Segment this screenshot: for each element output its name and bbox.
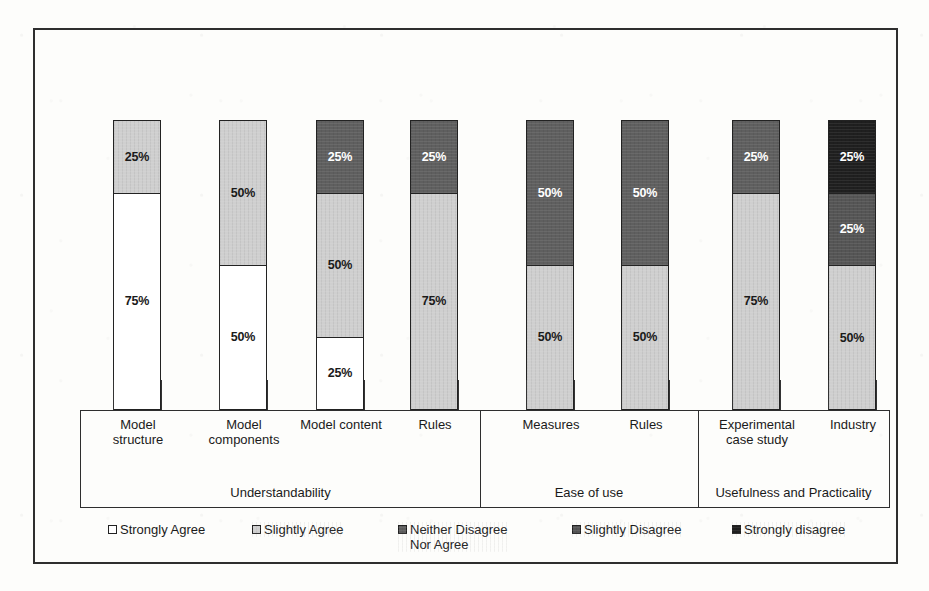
figure-frame: 25%75%50%50%25%50%25%25%75%50%50%50%50%2… — [33, 28, 898, 564]
bar-8: 25%25%50% — [828, 120, 876, 410]
legend-label: Strongly Agree — [120, 522, 205, 537]
bar-segment-neither: 50% — [527, 121, 573, 265]
category-label-line2: components — [189, 432, 299, 447]
segment-value-label: 25% — [840, 222, 864, 236]
bar-6: 50%50% — [621, 120, 669, 410]
legend-item-strongly-disagree[interactable]: Strongly disagree — [732, 522, 845, 537]
segment-value-label: 50% — [538, 330, 562, 344]
legend-swatch-icon — [572, 525, 581, 534]
category-label-1: Modelstructure — [90, 417, 186, 447]
axis-tick — [574, 380, 575, 410]
chart-legend: Strongly AgreeSlightly AgreeNeither Disa… — [80, 522, 890, 570]
segment-value-label: 50% — [328, 258, 352, 272]
category-label-table: ModelstructureModelcomponentsModel conte… — [80, 410, 890, 508]
segment-value-label: 50% — [633, 186, 657, 200]
segment-value-label: 75% — [744, 294, 768, 308]
bar-segment-neither: 25% — [317, 121, 363, 193]
segment-value-label: 75% — [422, 294, 446, 308]
bar-segment-strongly-agree: 50% — [220, 265, 266, 410]
group-label-3: Usefulness and Practicality — [698, 485, 889, 500]
axis-tick — [267, 380, 268, 410]
category-label-line2: structure — [90, 432, 186, 447]
legend-item-strongly-agree[interactable]: Strongly Agree — [108, 522, 205, 537]
bar-5: 50%50% — [526, 120, 574, 410]
bar-segment-slightly-agree: 25% — [114, 121, 160, 193]
axis-tick — [621, 380, 622, 410]
bar-stack: 25%25%50% — [828, 120, 876, 410]
axis-tick — [732, 380, 733, 410]
bar-1: 25%75% — [113, 120, 161, 410]
bar-segment-strongly-disagree: 25% — [829, 121, 875, 193]
category-label-8: Industry — [810, 417, 896, 432]
bar-7: 25%75% — [732, 120, 780, 410]
bar-stack: 25%50%25% — [316, 120, 364, 410]
axis-tick — [828, 380, 829, 410]
category-label-line1: Model content — [285, 417, 397, 432]
group-label-2: Ease of use — [480, 485, 698, 500]
bar-segment-neither: 25% — [733, 121, 779, 193]
bar-segment-slightly-agree: 50% — [527, 265, 573, 410]
category-label-line1: Model — [90, 417, 186, 432]
axis-tick — [458, 380, 459, 410]
segment-value-label: 50% — [840, 331, 864, 345]
category-label-line2: case study — [697, 432, 817, 447]
bar-3: 25%50%25% — [316, 120, 364, 410]
axis-tick — [219, 380, 220, 410]
legend-swatch-icon — [398, 525, 407, 534]
category-label-2: Modelcomponents — [189, 417, 299, 447]
legend-item-neither[interactable]: Neither DisagreeNor Agree — [398, 522, 508, 552]
axis-tick — [316, 380, 317, 410]
axis-tick — [364, 380, 365, 410]
bar-stack: 25%75% — [410, 120, 458, 410]
legend-item-slightly-disagree[interactable]: Slightly Disagree — [572, 522, 682, 537]
segment-value-label: 25% — [744, 150, 768, 164]
category-label-5: Measures — [503, 417, 599, 432]
category-label-line1: Industry — [810, 417, 896, 432]
segment-value-label: 25% — [328, 150, 352, 164]
category-label-line1: Experimental — [697, 417, 817, 432]
bar-segment-slightly-agree: 50% — [317, 193, 363, 337]
legend-label: Slightly Disagree — [584, 522, 682, 537]
category-label-7: Experimentalcase study — [697, 417, 817, 447]
category-label-line1: Model — [189, 417, 299, 432]
category-label-line1: Measures — [503, 417, 599, 432]
bar-segment-slightly-agree: 50% — [829, 265, 875, 409]
segment-value-label: 50% — [231, 330, 255, 344]
bar-segment-neither: 25% — [411, 121, 457, 193]
legend-swatch-icon — [108, 525, 117, 534]
legend-label: Strongly disagree — [744, 522, 845, 537]
segment-value-label: 50% — [231, 186, 255, 200]
figure-root: 25%75%50%50%25%50%25%25%75%50%50%50%50%2… — [0, 0, 929, 591]
bar-2: 50%50% — [219, 120, 267, 410]
bar-stack: 25%75% — [732, 120, 780, 410]
bar-segment-slightly-agree: 75% — [411, 193, 457, 409]
bar-4: 25%75% — [410, 120, 458, 410]
bar-stack: 50%50% — [621, 120, 669, 410]
bar-stack: 25%75% — [113, 120, 161, 410]
legend-swatch-icon — [252, 525, 261, 534]
segment-value-label: 50% — [538, 186, 562, 200]
axis-tick — [876, 380, 877, 410]
bar-segment-strongly-agree: 25% — [317, 337, 363, 410]
legend-label: Neither DisagreeNor Agree — [410, 522, 508, 552]
category-label-line1: Rules — [395, 417, 475, 432]
axis-tick — [410, 380, 411, 410]
bar-segment-slightly-disagree: 25% — [829, 193, 875, 266]
segment-value-label: 25% — [840, 150, 864, 164]
segment-value-label: 25% — [125, 150, 149, 164]
category-label-6: Rules — [606, 417, 686, 432]
category-label-3: Model content — [285, 417, 397, 432]
legend-item-slightly-agree[interactable]: Slightly Agree — [252, 522, 344, 537]
legend-label: Slightly Agree — [264, 522, 344, 537]
axis-tick — [113, 380, 114, 410]
bar-segment-strongly-agree: 75% — [114, 193, 160, 409]
category-label-4: Rules — [395, 417, 475, 432]
category-label-line1: Rules — [606, 417, 686, 432]
axis-tick — [669, 380, 670, 410]
bar-stack: 50%50% — [526, 120, 574, 410]
axis-tick — [780, 380, 781, 410]
axis-tick — [526, 380, 527, 410]
axis-tick — [161, 380, 162, 410]
plot-area: 25%75%50%50%25%50%25%25%75%50%50%50%50%2… — [80, 90, 890, 410]
legend-swatch-icon — [732, 525, 741, 534]
